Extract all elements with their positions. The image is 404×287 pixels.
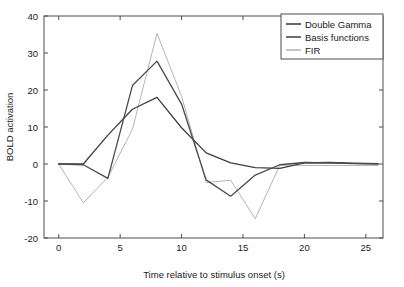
y-tick-label-2: 0 xyxy=(33,159,38,170)
y-tick-label-3: 10 xyxy=(27,122,38,133)
y-tick-labels: -20-10010203040 xyxy=(24,11,38,244)
legend-label-1: Basis functions xyxy=(305,32,369,43)
x-tick-label-4: 20 xyxy=(299,242,310,253)
x-tick-label-1: 5 xyxy=(118,242,123,253)
y-tick-label-0: -20 xyxy=(24,233,38,244)
legend-label-0: Double Gamma xyxy=(305,19,372,30)
series-line-double-gamma xyxy=(59,97,378,168)
x-tick-label-0: 0 xyxy=(56,242,61,253)
x-tick-label-2: 10 xyxy=(176,242,187,253)
chart-legend: Double GammaBasis functionsFIR xyxy=(281,14,383,59)
series-line-fir xyxy=(59,33,378,218)
x-tick-labels: 0510152025 xyxy=(56,242,371,253)
line-chart: 0510152025 -20-10010203040 Time relative… xyxy=(0,0,404,287)
series-group xyxy=(59,33,378,218)
y-tick-label-6: 40 xyxy=(27,11,38,22)
series-line-basis-functions xyxy=(59,61,378,196)
y-tick-label-4: 20 xyxy=(27,85,38,96)
x-tick-label-5: 25 xyxy=(361,242,372,253)
y-axis-title: BOLD activation xyxy=(4,93,15,162)
y-tick-label-1: -10 xyxy=(24,196,38,207)
y-tick-label-5: 30 xyxy=(27,48,38,59)
x-axis-title: Time relative to stimulus onset (s) xyxy=(143,269,285,280)
figure-container: 0510152025 -20-10010203040 Time relative… xyxy=(0,0,404,287)
legend-label-2: FIR xyxy=(305,45,320,56)
x-tick-label-3: 15 xyxy=(238,242,249,253)
